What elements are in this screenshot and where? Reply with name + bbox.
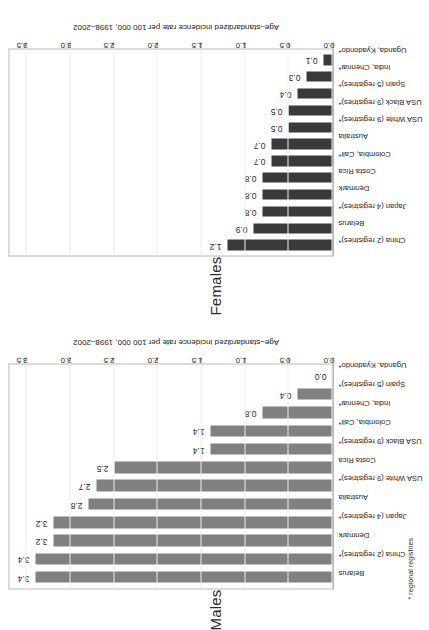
axis-tick-label: 0.5 [279, 40, 290, 49]
bar-slot: 0.5 [9, 118, 332, 135]
bar-slot: 0.8 [9, 169, 332, 186]
bar-slot: 0.3 [9, 68, 332, 85]
gridline [113, 49, 114, 255]
figure-canvas: Females 1.20.90.80.80.80.70.70.50.50.40.… [0, 0, 429, 630]
plot-area-females: 1.20.90.80.80.80.70.70.50.50.40.30.1 [8, 48, 333, 256]
gridline [200, 364, 201, 588]
category-slot: Uganda, Kyadondo* [336, 363, 429, 382]
category-slot: Belarus [336, 570, 429, 589]
bar-value-label: 0.4 [279, 90, 291, 100]
gridline [244, 364, 245, 588]
axis-tick-label: 2.0 [147, 355, 158, 364]
chart-stage-males: Males 3.43.43.23.22.82.72.51.41.40.80.40… [0, 315, 429, 630]
category-label: Uganda, Kyadondo* [338, 45, 406, 54]
category-slot: Japan (4 registries)* [336, 514, 429, 533]
axis-tick-label: 3.5 [16, 355, 27, 364]
category-slot: Costa Rica [336, 457, 429, 476]
axis-tick-label: 1.0 [235, 355, 246, 364]
bar-slot: 0.1 [9, 51, 332, 68]
bar-value-label: 3.4 [17, 555, 29, 565]
category-slot: Spain (5 registries)* [336, 382, 429, 401]
bar-value-label: 0.0 [314, 372, 326, 382]
bar[interactable]: 0.9 [253, 223, 332, 233]
bar[interactable]: 0.8 [262, 189, 332, 199]
bar-slot: 3.4 [9, 549, 332, 567]
bar-value-label: 0.5 [271, 123, 283, 133]
bar[interactable]: 0.4 [297, 88, 332, 98]
bar-slot: 1.4 [9, 439, 332, 457]
bar-slot: 0.5 [9, 101, 332, 118]
bar[interactable]: 1.2 [227, 239, 332, 249]
category-slot: Uganda, Kyadondo* [336, 48, 429, 65]
bar[interactable]: 3.2 [53, 516, 332, 527]
bar[interactable]: 3.2 [53, 534, 332, 545]
bar-value-label: 2.5 [96, 463, 108, 473]
gridline [331, 49, 332, 255]
category-slot: USA White (9 registries)* [336, 117, 429, 134]
bar[interactable]: 0.3 [306, 71, 332, 81]
bar-slot: 0.4 [9, 384, 332, 402]
category-slot: India, Chennai* [336, 65, 429, 82]
bar[interactable]: 0.5 [288, 122, 332, 132]
bar[interactable]: 1.4 [210, 443, 332, 454]
bar-value-label: 0.5 [271, 106, 283, 116]
bar[interactable]: 2.5 [114, 461, 332, 472]
bar[interactable]: 0.4 [297, 388, 332, 399]
panel-title-males: Males [0, 589, 429, 630]
category-slot: India, Chennai* [336, 401, 429, 420]
category-slot: Spain (5 registries)* [336, 83, 429, 100]
bar-slot: 2.7 [9, 476, 332, 494]
gridline [25, 364, 26, 588]
chart-stage-females: Females 1.20.90.80.80.80.70.70.50.50.40.… [0, 0, 429, 315]
bar[interactable]: 0.5 [288, 105, 332, 115]
gridline [25, 49, 26, 255]
axis-tick-label: 2.5 [103, 40, 114, 49]
category-slot: Colombia, Cali* [336, 152, 429, 169]
bar[interactable]: 2.8 [88, 498, 332, 509]
axis-tick-label: 0.0 [323, 40, 334, 49]
gridline [156, 49, 157, 255]
category-slot: Denmark [336, 187, 429, 204]
bar-value-label: 2.7 [78, 482, 90, 492]
axis-tick-label: 0.5 [279, 355, 290, 364]
bar-slot: 2.8 [9, 494, 332, 512]
bar-slot: 0.7 [9, 152, 332, 169]
bar-value-label: 2.8 [70, 500, 82, 510]
category-slot: Belarus [336, 221, 429, 238]
category-slot: Australia [336, 495, 429, 514]
bar[interactable]: 0.8 [262, 406, 332, 417]
bar[interactable]: 2.7 [96, 480, 332, 491]
axis-tick-label: 3.0 [59, 40, 70, 49]
gridline [331, 364, 332, 588]
bar[interactable]: 0.7 [271, 138, 332, 148]
bar-value-label: 1.2 [209, 241, 221, 251]
value-axis-title-males: Age–standardized incidence rate per 100 … [72, 337, 278, 346]
bar-value-label: 0.8 [244, 191, 256, 201]
category-slot: USA White (9 registries)* [336, 476, 429, 495]
gridline [113, 364, 114, 588]
bar-slot: 0.7 [9, 135, 332, 152]
axis-tick-label: 3.5 [16, 40, 27, 49]
value-axis-females: Age–standardized incidence rate per 100 … [8, 0, 333, 46]
bar-value-label: 0.8 [244, 207, 256, 217]
category-axis-females: China (2 registries)*BelarusJapan (4 reg… [333, 46, 429, 256]
bar[interactable]: 1.4 [210, 425, 332, 436]
bar-value-label: 0.7 [253, 157, 265, 167]
bar-slot: 3.4 [9, 568, 332, 586]
axis-tick-label: 1.0 [235, 40, 246, 49]
category-slot: USA Black (9 registries)* [336, 100, 429, 117]
bar[interactable]: 0.7 [271, 155, 332, 165]
chart-panel-females: Females 1.20.90.80.80.80.70.70.50.50.40.… [0, 0, 429, 315]
category-slot: USA Black (9 registries)* [336, 438, 429, 457]
bar-value-label: 3.2 [35, 518, 47, 528]
bar[interactable]: 0.8 [262, 206, 332, 216]
bar[interactable]: 0.8 [262, 172, 332, 182]
bar-slot: 0.8 [9, 403, 332, 421]
panel-title-females: Females [0, 256, 429, 315]
bar-value-label: 0.8 [244, 408, 256, 418]
bar-slot: 0.8 [9, 203, 332, 220]
category-slot: Australia [336, 135, 429, 152]
bar-slot: 3.2 [9, 513, 332, 531]
bar-slot: 0.8 [9, 186, 332, 203]
gridline [287, 364, 288, 588]
